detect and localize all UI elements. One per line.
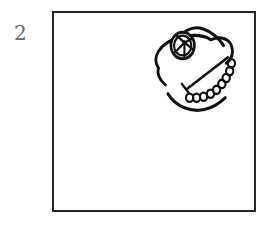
- head-outline-snout-left-stroke: [158, 68, 165, 85]
- worksheet-page: 2: [0, 0, 273, 225]
- item-number-label: 2: [14, 18, 44, 48]
- eye-pupil: [182, 40, 186, 45]
- creature-eye-icon: [171, 32, 194, 59]
- diagonal-jaw-line-stroke: [187, 57, 228, 89]
- drawing-frame[interactable]: [52, 11, 256, 212]
- hand-drawn-creature-head-sketch: [54, 13, 254, 210]
- beaded-chain-group: [186, 59, 235, 102]
